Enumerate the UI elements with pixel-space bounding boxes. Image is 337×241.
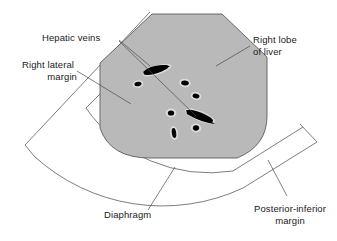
- liver-ultrasound-diagram: Hepatic veins Right lateral margin Right…: [0, 0, 337, 241]
- label-posterior-inferior-margin-line2: margin: [275, 215, 305, 226]
- sector-bottom-arc: [34, 156, 243, 206]
- hepatic-vein-small-d: [166, 109, 177, 118]
- label-hepatic-veins: Hepatic veins: [42, 32, 100, 43]
- sector-right-edge: [300, 124, 317, 142]
- label-right-lobe-of-liver-line1: Right lobe: [253, 34, 297, 45]
- leader-diaphragm: [148, 167, 175, 210]
- sector-corner-left: [25, 145, 34, 156]
- label-diaphragm: Diaphragm: [104, 209, 151, 220]
- sector-right-lower-edge: [243, 142, 317, 188]
- label-right-lateral-margin-line1: Right lateral: [22, 59, 74, 70]
- label-right-lateral-margin-line2: margin: [47, 71, 77, 82]
- label-posterior-inferior-margin-line1: Posterior-inferior: [254, 203, 326, 214]
- leader-posterior-inferior-margin: [268, 160, 287, 196]
- figure-container: Hepatic veins Right lateral margin Right…: [0, 0, 337, 241]
- label-right-lobe-of-liver-line2: of liver: [253, 46, 282, 57]
